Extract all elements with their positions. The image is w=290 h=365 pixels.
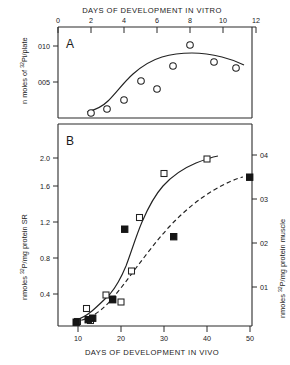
panel-b-y2tick-01: 01: [260, 283, 268, 292]
panel-b-ylabel-post: P/mg protein SR: [20, 214, 29, 268]
svg-text:n moles of 32Pi/plate: n moles of 32Pi/plate: [19, 37, 29, 104]
panel-a-point: [104, 106, 111, 113]
panel-b-muscle-point: [90, 315, 96, 321]
panel-a-point: [88, 110, 95, 117]
panel-b-xtick-10: 10: [74, 334, 82, 343]
panel-b-ytick-12: 1.2: [40, 218, 50, 227]
panel-b-sr-point: [161, 171, 167, 177]
svg-text:nmoles 32P/mg protein muscle: nmoles 32P/mg protein muscle: [277, 219, 287, 318]
panel-a-xtick-3: 6: [155, 16, 159, 25]
panel-a-xtick-0: 0: [56, 16, 60, 25]
panel-b-muscle-point: [73, 319, 79, 325]
panel-a: DAYS OF DEVELOPMENT IN VITRO 0 2 4 6 8 1…: [19, 6, 260, 118]
panel-b-sr-point: [204, 156, 210, 162]
panel-b-y2tick-02: 02: [260, 239, 268, 248]
panel-b-sr-point: [103, 292, 109, 298]
panel-b-sr-point: [84, 306, 90, 312]
panel-b-xtick-20: 20: [117, 334, 125, 343]
panel-b-y-ticks: 0.4 0.8 1.2 1.6 2.0: [40, 154, 58, 299]
svg-text:nmoles 32P/mg protein SR: nmoles 32P/mg protein SR: [19, 214, 29, 300]
panel-b-muscle-point: [171, 234, 177, 240]
panel-b-sr-point: [129, 268, 135, 274]
panel-a-x-ticks: 0 2 4 6 8 10 12: [56, 16, 260, 33]
panel-a-point: [233, 65, 240, 72]
panel-b-xtick-30: 30: [160, 334, 168, 343]
panel-b-xtick-40: 40: [203, 334, 211, 343]
panel-a-data-points: [88, 42, 240, 117]
panel-b-ylabel-pre: nmoles: [20, 274, 29, 300]
panel-b-muscle-point: [247, 174, 253, 180]
panel-b-y2-axis-label: nmoles 32P/mg protein muscle: [277, 219, 287, 318]
panel-b-xtick-50: 50: [246, 334, 254, 343]
panel-b-y2tick-03: 03: [260, 195, 268, 204]
panel-a-point: [138, 78, 145, 85]
panel-b-muscle-points: [73, 174, 253, 325]
panel-b-ytick-20: 2.0: [40, 154, 50, 163]
panel-b-axis-title: DAYS OF DEVELOPMENT IN VIVO: [85, 348, 219, 357]
panel-b-letter: B: [66, 134, 74, 148]
panel-b-y2-ticks: 01 02 03 04: [252, 151, 268, 292]
panel-b-sr-curve: [74, 156, 218, 321]
panel-a-axis-title: DAYS OF DEVELOPMENT IN VITRO: [82, 6, 222, 15]
panel-a-y-ticks: 010 005: [38, 42, 58, 87]
panel-b-sr-points: [75, 156, 211, 325]
panel-a-ylabel-post: Pi/plate: [20, 37, 29, 62]
panel-b-muscle-curve: [74, 177, 243, 322]
panel-a-xtick-1: 2: [89, 16, 93, 25]
panel-a-ytick-005: 005: [38, 78, 50, 87]
panel-a-point: [121, 97, 128, 104]
panel-b-muscle-point: [110, 297, 116, 303]
panel-a-letter: A: [66, 37, 74, 51]
panel-a-xtick-2: 4: [122, 16, 126, 25]
figure-svg: DAYS OF DEVELOPMENT IN VITRO 0 2 4 6 8 1…: [0, 0, 290, 365]
panel-b-muscle-point: [122, 226, 128, 232]
panel-a-xtick-6: 12: [252, 16, 260, 25]
panel-a-point: [170, 63, 177, 70]
panel-b-ytick-16: 1.6: [40, 182, 50, 191]
panel-a-y-axis-label: n moles of 32Pi/plate: [19, 37, 29, 104]
panel-b-ytick-04: 0.4: [40, 290, 50, 299]
panel-a-fit-curve: [87, 53, 244, 112]
panel-a-xtick-5: 10: [219, 16, 227, 25]
panel-b: B 0.4 0.8 1.2 1.6 2.0 01 02 03 04: [19, 124, 287, 357]
panel-a-point: [187, 42, 194, 49]
figure-container: DAYS OF DEVELOPMENT IN VITRO 0 2 4 6 8 1…: [0, 0, 290, 365]
panel-b-x-ticks: 10 20 30 40 50: [74, 326, 254, 343]
panel-a-ylabel-pre: n moles of: [20, 68, 29, 104]
panel-b-ytick-08: 0.8: [40, 254, 50, 263]
panel-b-sr-point: [137, 215, 143, 221]
panel-b-y2tick-04: 04: [260, 151, 268, 160]
panel-b-y-axis-label: nmoles 32P/mg protein SR: [19, 214, 29, 300]
panel-b-y2label-post: P/mg protein muscle: [278, 219, 287, 286]
panel-a-xtick-4: 8: [188, 16, 192, 25]
panel-a-ytick-010: 010: [38, 42, 50, 51]
panel-a-point: [211, 59, 218, 66]
panel-b-y2label-pre: nmoles: [278, 292, 287, 318]
panel-b-sr-point: [118, 299, 124, 305]
panel-a-point: [154, 86, 161, 93]
